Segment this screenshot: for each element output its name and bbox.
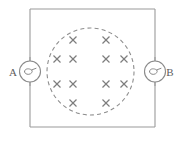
cross-mark — [121, 81, 128, 88]
meter-a-label: A — [9, 66, 17, 78]
cross-mark — [103, 37, 110, 44]
cross-mark — [103, 56, 110, 63]
meter-b — [145, 57, 166, 86]
cross-mark — [54, 81, 61, 88]
field-cross-marks — [54, 37, 128, 107]
magnetic-field-region-boundary — [47, 28, 134, 115]
cross-mark — [121, 56, 128, 63]
cross-mark — [70, 100, 77, 107]
meter-a-body — [20, 61, 41, 82]
cross-mark — [70, 81, 77, 88]
cross-mark — [103, 81, 110, 88]
cross-mark — [103, 100, 110, 107]
meter-b-label: B — [166, 66, 173, 78]
diagram-canvas: A B — [0, 0, 183, 143]
cross-mark — [70, 56, 77, 63]
circuit-rectangle — [30, 9, 155, 127]
physics-diagram-figure: A B — [0, 0, 183, 143]
cross-mark — [70, 37, 77, 44]
cross-mark — [54, 56, 61, 63]
meter-a — [20, 57, 41, 86]
meter-b-body — [145, 61, 166, 82]
